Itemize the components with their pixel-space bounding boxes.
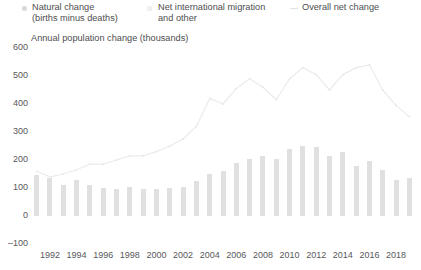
bar [221,171,226,216]
bar [181,187,186,216]
bar [340,152,345,216]
bar [287,149,292,216]
bar [114,189,119,216]
x-tick-label: 1996 [88,250,118,260]
plot-area [0,0,421,270]
x-tick-label: 2006 [221,250,251,260]
bar [300,146,305,216]
x-tick-label: 1992 [35,250,65,260]
bar [74,180,79,216]
x-tick-label: 1994 [62,250,92,260]
x-tick-label: 1998 [115,250,145,260]
chart-container: Natural change (births minus deaths) Net… [0,0,421,270]
bar [314,147,319,216]
bar [194,181,199,216]
bar [380,170,385,216]
x-tick-label: 2010 [275,250,305,260]
bar [141,189,146,216]
x-tick-label: 2002 [168,250,198,260]
bar [354,166,359,216]
bar [274,159,279,216]
bar [394,180,399,216]
x-tick-label: 2004 [195,250,225,260]
bar [34,175,39,216]
bar [101,188,106,216]
bar [127,187,132,216]
x-tick-label: 2018 [381,250,411,260]
bar [234,163,239,216]
bar [207,174,212,216]
x-tick-label: 2016 [354,250,384,260]
bar [247,159,252,216]
x-tick-label: 2000 [141,250,171,260]
x-tick-label: 2012 [301,250,331,260]
bar [47,178,52,216]
x-tick-label: 2008 [248,250,278,260]
bar [407,178,412,216]
bar [367,161,372,216]
bar [61,185,66,216]
x-axis: 1992199419961998200020022004200620082010… [0,250,421,266]
bar [87,185,92,216]
x-tick-label: 2014 [328,250,358,260]
bar [327,156,332,216]
bar [260,156,265,216]
bar [167,188,172,216]
bar [154,189,159,216]
